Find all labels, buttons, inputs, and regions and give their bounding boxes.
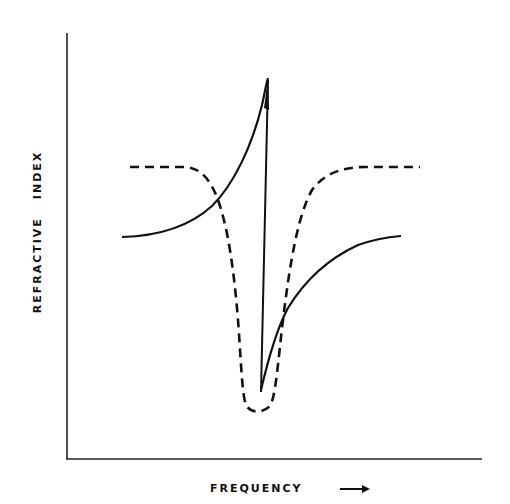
y-axis-label: REFRACTIVEINDEX xyxy=(31,151,44,314)
y-axis-label-word-2: INDEX xyxy=(31,151,44,199)
absorption-curve-dashed xyxy=(130,167,420,412)
refractive-curve-left xyxy=(122,78,268,237)
x-axis-label-text: FREQUENCY xyxy=(210,482,303,495)
arrow-right-icon xyxy=(340,485,370,493)
chart-canvas xyxy=(0,0,510,504)
refractive-curve-drop xyxy=(261,80,268,392)
x-axis-label: FREQUENCY xyxy=(210,482,303,495)
y-axis-label-word-1: REFRACTIVE xyxy=(31,217,44,313)
refractive-curve-right xyxy=(261,236,401,390)
